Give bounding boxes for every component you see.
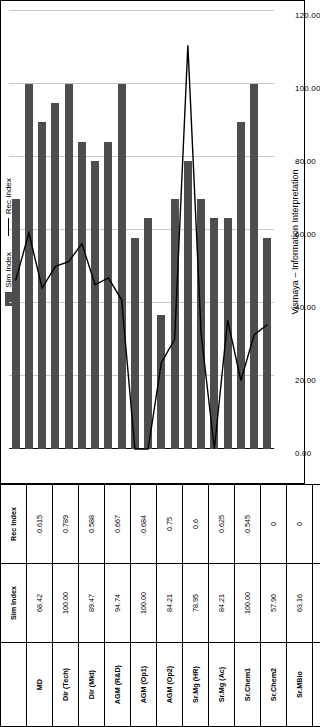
table-cell-sim-index: 100.00 bbox=[235, 564, 261, 643]
table-cell-sim-index: 84.21 bbox=[209, 564, 235, 643]
table-row: Dir (Tech)100.000.789 bbox=[53, 485, 79, 727]
table-cell-sim-index: 84.21 bbox=[157, 564, 183, 643]
table-cell-rec-index: 0 bbox=[287, 485, 306, 564]
table-row-label: AGM (Op2) bbox=[157, 643, 183, 727]
table-col-header: Sim Index bbox=[1, 564, 27, 643]
table-row-label: Dir (Tech) bbox=[53, 643, 79, 727]
table-row: Sr.MBio63.160 bbox=[287, 485, 306, 727]
table-row-label: AGM (Op1) bbox=[131, 643, 157, 727]
table-row: MD68.420.615 bbox=[27, 485, 53, 727]
data-table: Sim IndexRec IndexMD68.420.615Dir (Tech)… bbox=[0, 484, 305, 727]
table-header-row: Sim IndexRec Index bbox=[1, 485, 27, 727]
table-cell-sim-index: 78.95 bbox=[183, 564, 209, 643]
rec-index-polyline bbox=[16, 45, 268, 449]
table-row-label: Sr.Mg (HR) bbox=[183, 643, 209, 727]
table-row: Sr.Chem257.900 bbox=[261, 485, 287, 727]
table-cell-sim-index: 63.16 bbox=[287, 564, 306, 643]
table-cell-rec-index: 0.75 bbox=[157, 485, 183, 564]
table-row-label: MD bbox=[27, 643, 53, 727]
table-row: Dir (Mkt)89.470.588 bbox=[79, 485, 105, 727]
table-cell-rec-index: 0.588 bbox=[79, 485, 105, 564]
table-row-label: AGM (R&D) bbox=[105, 643, 131, 727]
table-cell-sim-index: 68.42 bbox=[27, 564, 53, 643]
table-row-label: Sr.MBio bbox=[287, 643, 306, 727]
plot-area: 0.0020.0040.0060.0080.00100.00120.0000.2… bbox=[9, 11, 274, 449]
table-col-header: Rec Index bbox=[1, 485, 27, 564]
table-cell-rec-index: 0.667 bbox=[105, 485, 131, 564]
table-col-header-blank bbox=[1, 643, 27, 727]
table-row-label: Dir (Mkt) bbox=[79, 643, 105, 727]
table-cell-rec-index: 0.789 bbox=[53, 485, 79, 564]
table-cell-rec-index: 0 bbox=[261, 485, 287, 564]
table-cell-sim-index: 94.74 bbox=[105, 564, 131, 643]
table-cell-rec-index: 0.684 bbox=[131, 485, 157, 564]
table-cell-sim-index: 57.90 bbox=[261, 564, 287, 643]
table-cell-rec-index: 0.615 bbox=[27, 485, 53, 564]
table-row: Sr.Chem1100.000.545 bbox=[235, 485, 261, 727]
table-row: Sr.Mg (HR)78.950.6 bbox=[183, 485, 209, 727]
rec-index-line-series bbox=[9, 11, 274, 449]
chart-panel: Sim Index Rec Index 0.0020.0040.0060.008… bbox=[0, 0, 305, 484]
table-row: AGM (Op2)84.210.75 bbox=[157, 485, 183, 727]
table-row-label: Sr.Chem1 bbox=[235, 643, 261, 727]
table-cell-sim-index: 100.00 bbox=[131, 564, 157, 643]
chart-title: Vismaya – Information Interpretation bbox=[290, 1, 300, 483]
table-cell-rec-index: 0.6 bbox=[183, 485, 209, 564]
table-row: AGM (R&D)94.740.667 bbox=[105, 485, 131, 727]
data-table-panel: Sim IndexRec IndexMD68.420.615Dir (Tech)… bbox=[0, 484, 305, 727]
table-row: Sr.Mg (Ac)84.210.625 bbox=[209, 485, 235, 727]
table-cell-sim-index: 89.47 bbox=[79, 564, 105, 643]
table-cell-sim-index: 100.00 bbox=[53, 564, 79, 643]
table-cell-rec-index: 0.545 bbox=[235, 485, 261, 564]
table-row-label: Sr.Chem2 bbox=[261, 643, 287, 727]
table-cell-rec-index: 0.625 bbox=[209, 485, 235, 564]
table-row: AGM (Op1)100.000.684 bbox=[131, 485, 157, 727]
table-row-label: Sr.Mg (Ac) bbox=[209, 643, 235, 727]
figure-root: Sim IndexRec IndexMD68.420.615Dir (Tech)… bbox=[0, 0, 305, 727]
